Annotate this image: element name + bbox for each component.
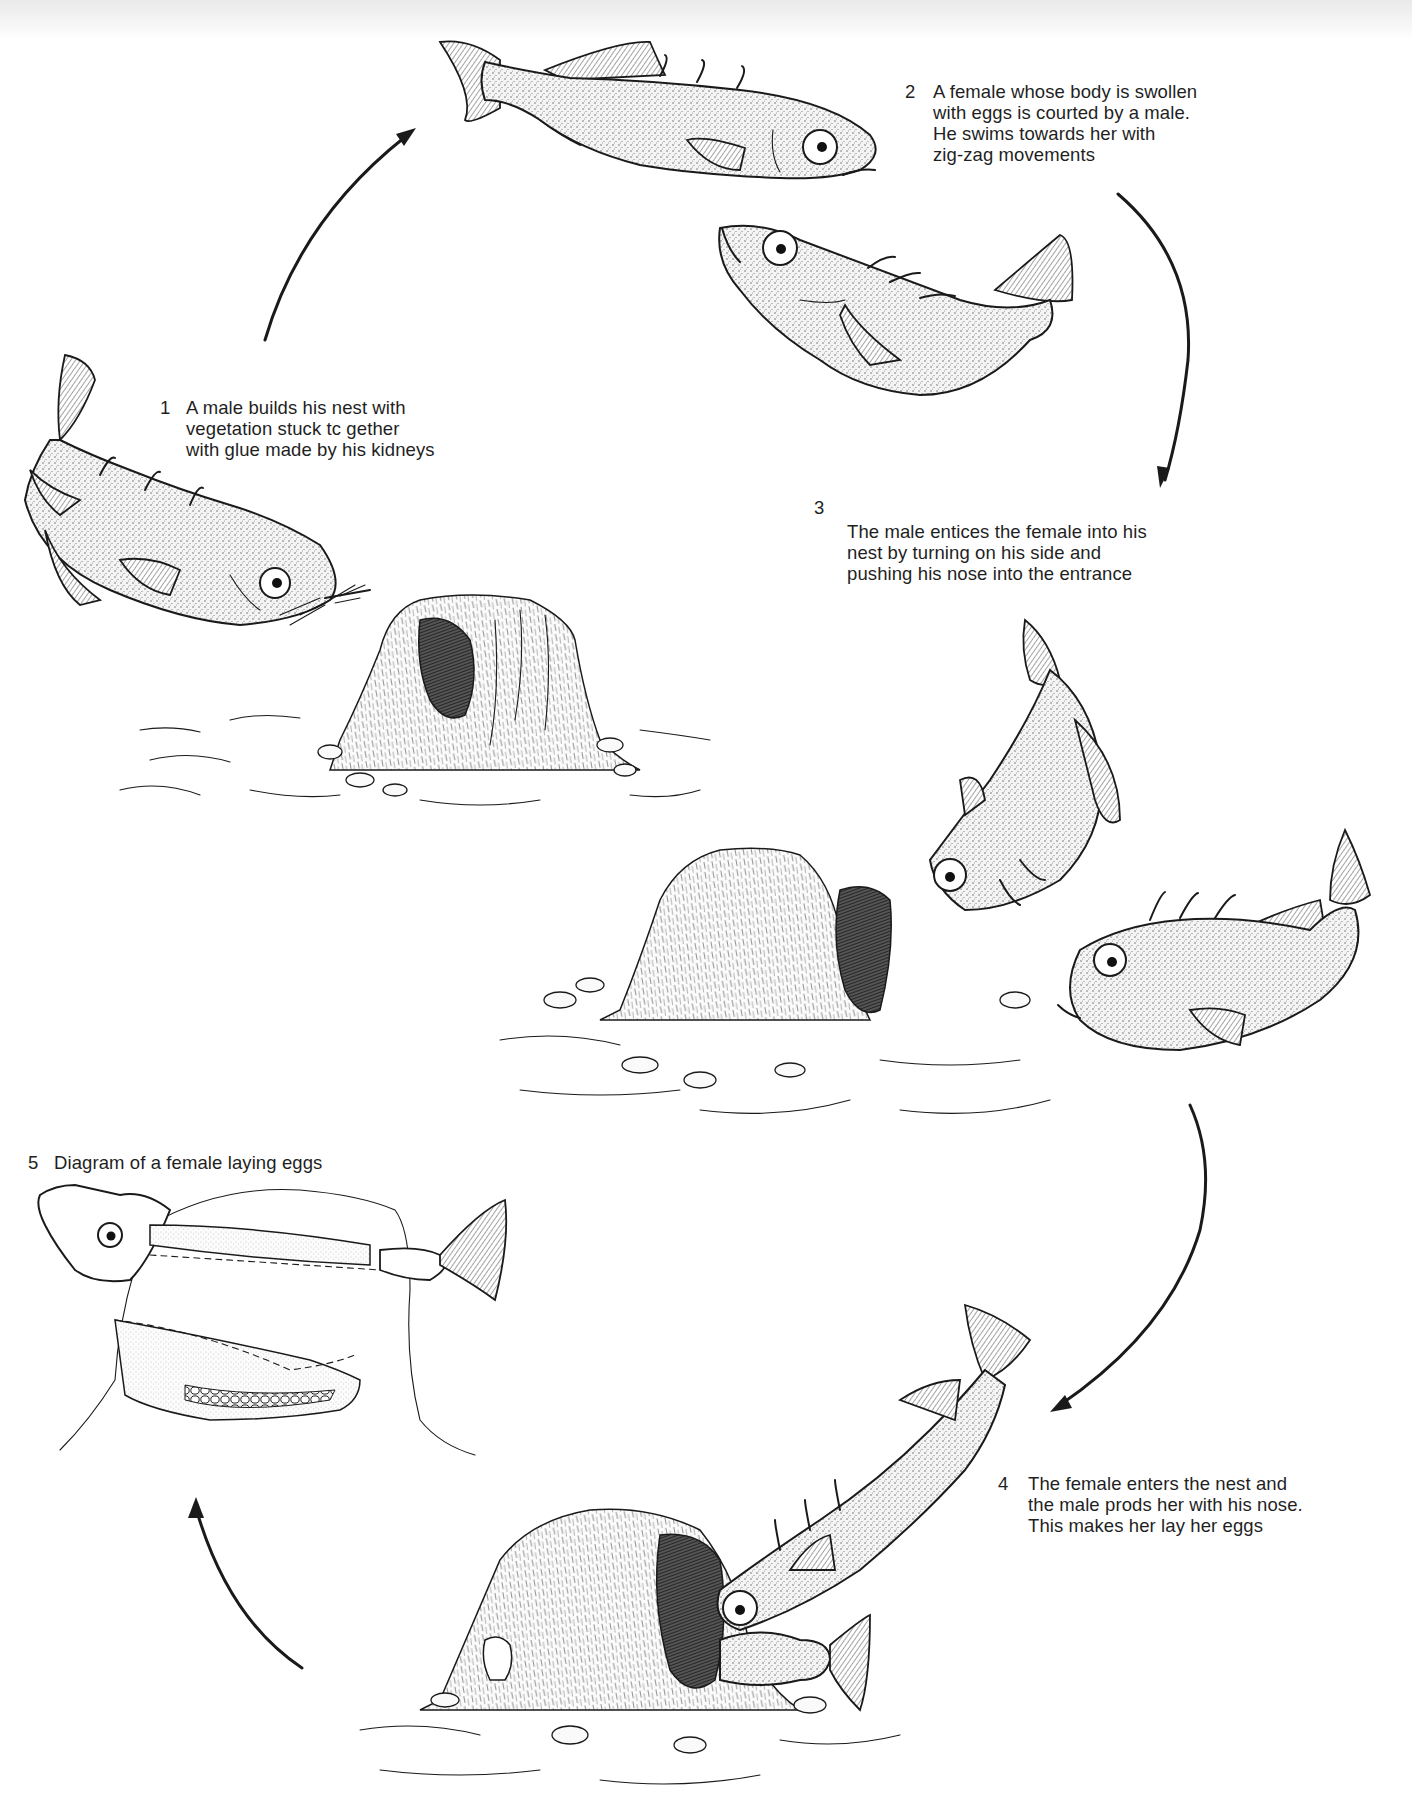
stage-3-number: 3 bbox=[814, 497, 824, 518]
stage-2-line-4: zig-zag movements bbox=[933, 144, 1197, 165]
stage-3-line-1: The male entices the female into his bbox=[847, 521, 1147, 542]
stage-5-caption: 5 Diagram of a female laying eggs bbox=[28, 1152, 322, 1173]
stage-5-cutaway-diagram bbox=[38, 1185, 506, 1455]
stage-3-line-2: nest by turning on his side and bbox=[847, 542, 1147, 563]
arrow-stage-4-to-5 bbox=[188, 1497, 302, 1668]
stage-5-number: 5 bbox=[28, 1152, 38, 1173]
stage-3-male-fish bbox=[930, 620, 1120, 910]
stage-2-female-fish bbox=[440, 41, 876, 178]
stage-4-caption: 4 The female enters the nest and the mal… bbox=[998, 1473, 1303, 1536]
stage-1-male-fish bbox=[25, 355, 370, 625]
stage-1-nest bbox=[120, 595, 710, 805]
stage-1-line-2: vegetation stuck tc gether bbox=[186, 418, 435, 439]
arrow-stage-2-to-3 bbox=[1118, 194, 1189, 488]
stage-4-line-2: the male prods her with his nose. bbox=[1028, 1494, 1303, 1515]
stage-2-caption: 2 A female whose body is swollen with eg… bbox=[905, 81, 1197, 165]
stage-1-number: 1 bbox=[160, 397, 170, 418]
stage-1-caption: 1 A male builds his nest with vegetation… bbox=[160, 397, 435, 460]
stage-4-line-1: The female enters the nest and bbox=[1028, 1473, 1303, 1494]
stage-2-line-3: He swims towards her with bbox=[933, 123, 1197, 144]
stage-2-number: 2 bbox=[905, 81, 915, 102]
stage-2-line-2: with eggs is courted by a male. bbox=[933, 102, 1197, 123]
stage-2-line-1: A female whose body is swollen bbox=[933, 81, 1197, 102]
stage-1-line-1: A male builds his nest with bbox=[186, 397, 435, 418]
arrow-stage-3-to-4 bbox=[1050, 1105, 1206, 1412]
stage-3-female-fish bbox=[1058, 830, 1370, 1050]
stage-5-line-1: Diagram of a female laying eggs bbox=[54, 1152, 322, 1173]
arrow-stage-1-to-2 bbox=[265, 128, 416, 340]
stage-2-male-fish bbox=[719, 226, 1072, 395]
stage-3-line-3: pushing his nose into the entrance bbox=[847, 563, 1147, 584]
stage-4-number: 4 bbox=[998, 1473, 1008, 1494]
stage-4-line-3: This makes her lay her eggs bbox=[1028, 1515, 1303, 1536]
stage-3-caption: 3 The male entices the female into his n… bbox=[814, 497, 1147, 584]
stage-1-line-3: with glue made by his kidneys bbox=[186, 439, 435, 460]
stage-4-female-fish bbox=[718, 1305, 1031, 1630]
